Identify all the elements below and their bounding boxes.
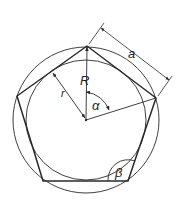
dimension-extension-top: [89, 23, 104, 44]
center-point: [85, 119, 87, 121]
circumradius-label: R: [80, 74, 89, 87]
inradius-label: r: [61, 88, 65, 99]
pentagon-diagram: [0, 0, 180, 200]
dimension-extension-right: [158, 76, 172, 96]
beta-label: β: [115, 166, 122, 179]
alpha-label: α: [92, 99, 99, 112]
side-length-label: a: [128, 47, 135, 60]
